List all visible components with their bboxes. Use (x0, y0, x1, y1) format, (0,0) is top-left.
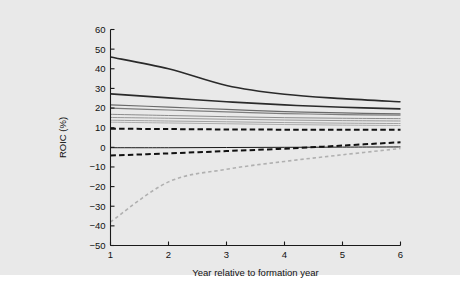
y-tick-label: 40 (95, 63, 106, 74)
y-tick-label: 0 (100, 142, 105, 153)
y-tick-label: 60 (95, 24, 106, 35)
y-tick-label: −10 (89, 161, 105, 172)
y-tick-label: −50 (89, 240, 105, 251)
y-tick-label: −40 (89, 220, 105, 231)
series-line-zero-reference (111, 147, 401, 148)
x-tick-label: 6 (398, 249, 403, 260)
series-line-fourth-decile (111, 108, 401, 115)
series-layer (111, 57, 401, 222)
y-tick-label: 10 (95, 122, 106, 133)
y-tick-label: −30 (89, 201, 105, 212)
x-axis-ticks: 123456 (108, 242, 403, 260)
x-tick-label: 2 (166, 249, 171, 260)
y-axis-title: ROIC (%) (57, 117, 68, 158)
plot-area: −50−40−30−20−100102030405060 123456 ROIC… (0, 0, 460, 298)
x-axis-title: Year relative to formation year (192, 267, 318, 278)
y-tick-label: 30 (95, 83, 106, 94)
x-tick-label: 3 (224, 249, 229, 260)
x-tick-label: 4 (282, 249, 287, 260)
y-tick-label: 50 (95, 44, 106, 55)
series-line-bottom-decile-dashed (111, 149, 401, 222)
roic-line-chart: −50−40−30−20−100102030405060 123456 ROIC… (0, 0, 460, 298)
axes-layer (111, 30, 401, 246)
y-tick-label: −20 (89, 181, 105, 192)
x-tick-label: 5 (340, 249, 345, 260)
x-tick-label: 1 (108, 249, 113, 260)
series-line-median-dashed (111, 129, 401, 130)
series-line-top-decile (111, 57, 401, 102)
y-tick-label: 20 (95, 102, 106, 113)
chart-figure: −50−40−30−20−100102030405060 123456 ROIC… (0, 0, 460, 298)
